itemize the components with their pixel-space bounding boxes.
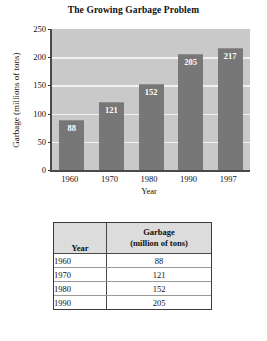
bar-value-label: 121: [99, 106, 124, 115]
x-tick-label-1990: 1990: [172, 174, 206, 184]
chart-title: The Growing Garbage Problem: [0, 5, 267, 15]
column-header-year: Year: [54, 223, 107, 254]
y-tick-label: 250: [20, 25, 46, 34]
bar-1970: 121: [99, 102, 124, 170]
bar-1990: 205: [178, 54, 203, 170]
table-row: 1990205: [54, 296, 211, 310]
x-tick-label-1970: 1970: [92, 174, 126, 184]
cell-garbage-value: 152: [107, 282, 212, 296]
column-header-garbage-line1: Garbage: [107, 227, 211, 238]
bar-value-label: 88: [59, 124, 84, 133]
x-axis-tick-labels: 19601970198019901997: [50, 174, 248, 186]
cell-year: 1970: [54, 268, 107, 282]
bar-1980: 152: [139, 84, 164, 170]
y-tick-label: 150: [20, 81, 46, 90]
cell-year: 1980: [54, 282, 107, 296]
x-axis-title: Year: [50, 186, 248, 196]
bar-value-label: 152: [139, 88, 164, 97]
y-tick-label: 50: [20, 138, 46, 147]
y-tick-label: 0: [20, 166, 46, 175]
x-tick-label-1980: 1980: [132, 174, 166, 184]
bars-group: 88121152205217: [52, 29, 250, 170]
cell-year: 1960: [54, 254, 107, 268]
table-row: 196088: [54, 254, 211, 268]
cell-year: 1990: [54, 296, 107, 310]
x-tick-label-1960: 1960: [53, 174, 87, 184]
table-header-row: Year Garbage (million of tons): [54, 223, 211, 254]
table-row: 1970121: [54, 268, 211, 282]
table-row: 1980152: [54, 282, 211, 296]
column-header-garbage-line2: (million of tons): [107, 238, 211, 249]
cell-garbage-value: 121: [107, 268, 212, 282]
y-tick-label: 100: [20, 110, 46, 119]
y-axis-tick-labels: 050100150200250: [20, 25, 46, 171]
bar-value-label: 205: [178, 58, 203, 67]
garbage-bar-chart-figure: The Growing Garbage Problem Garbage (mil…: [0, 0, 267, 200]
column-header-garbage: Garbage (million of tons): [107, 223, 212, 254]
bar-1997: 217: [218, 48, 243, 170]
garbage-data-table: Year Garbage (million of tons) 196088197…: [53, 222, 212, 310]
cell-garbage-value: 205: [107, 296, 212, 310]
bar-1960: 88: [59, 120, 84, 170]
y-tick-label: 200: [20, 53, 46, 62]
bar-value-label: 217: [218, 52, 243, 61]
cell-garbage-value: 88: [107, 254, 212, 268]
table-body: 196088197012119801521990205: [54, 254, 211, 310]
plot-area: 88121152205217: [50, 29, 250, 172]
x-tick-label-1997: 1997: [211, 174, 245, 184]
